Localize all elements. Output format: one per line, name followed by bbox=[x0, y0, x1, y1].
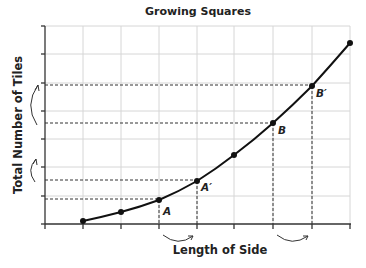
x-axis-label: Length of Side bbox=[140, 243, 300, 257]
guide-lines bbox=[45, 85, 312, 224]
label-b-prime: B′ bbox=[316, 87, 327, 99]
grid bbox=[45, 26, 350, 224]
y-axis-label: Total Number of Tiles bbox=[11, 45, 25, 205]
curved-arrow-icons bbox=[31, 85, 308, 241]
label-b: B bbox=[278, 124, 286, 136]
chart-plot: A A′ B B′ bbox=[0, 0, 366, 268]
label-a-prime: A′ bbox=[200, 181, 212, 193]
data-curve bbox=[83, 43, 350, 221]
label-a: A bbox=[162, 205, 171, 217]
